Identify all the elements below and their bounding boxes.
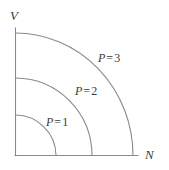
curve-label-p2-value: 2 <box>91 84 97 98</box>
curve-label-p1: P=1 <box>46 116 68 128</box>
curve-label-p3-equals: = <box>105 51 114 65</box>
figure-container: V N P=3 P=2 P=1 <box>0 0 169 170</box>
curve-label-p1-value: 1 <box>62 115 68 129</box>
curve-label-p3-value: 3 <box>114 51 120 65</box>
y-axis-label: V <box>10 9 18 22</box>
x-axis-label: N <box>145 148 154 161</box>
curve-label-p3: P=3 <box>98 52 120 64</box>
curve-label-p1-equals: = <box>53 115 62 129</box>
curve-label-p2: P=2 <box>75 85 97 97</box>
curve-label-p2-equals: = <box>82 84 91 98</box>
